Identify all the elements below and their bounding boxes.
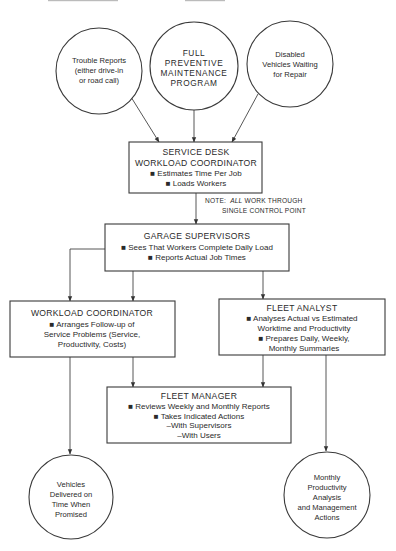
garage-supervisors-title: GARAGE SUPERVISORS [144, 231, 251, 241]
pm-line-1: FULL [183, 48, 206, 58]
workload-coordinator-box: WORKLOAD COORDINATOR ■ Arranges Follow-u… [10, 301, 175, 357]
analyst-line-4: Monthly Summaries [269, 344, 340, 353]
garage-bullet-2: ■ Reports Actual Job Times [148, 253, 246, 262]
manager-line-2: ■ Takes Indicated Actions [154, 412, 245, 421]
disabled-line-3: for Repair [273, 70, 307, 79]
delivered-line-3: Time When [52, 500, 91, 509]
pm-line-3: MAINTENANCE [161, 68, 228, 78]
monthly-line-1: Monthly [314, 473, 341, 482]
monthly-line-5: Actions [315, 513, 340, 522]
workload-coordinator-title: WORKLOAD COORDINATOR [31, 308, 153, 318]
workload-line-1: ■ Arranges Follow-up of [50, 320, 136, 329]
delivered-line-2: Delivered on [50, 490, 93, 499]
fleet-analyst-title: FLEET ANALYST [267, 303, 338, 313]
output-monthly-productivity: Monthly Productivity Analysis and Manage… [284, 452, 370, 538]
monthly-line-2: Productivity [307, 483, 346, 492]
disabled-line-1: Disabled [275, 50, 305, 59]
service-desk-subtitle: WORKLOAD COORDINATOR [135, 158, 257, 168]
garage-supervisors-box: GARAGE SUPERVISORS ■ Sees That Workers C… [105, 224, 289, 271]
delivered-line-4: Promised [55, 510, 87, 519]
analyst-line-2: Worktime and Productivity [258, 324, 351, 333]
delivered-line-1: Vehicles [57, 480, 85, 489]
monthly-line-4: and Management [297, 503, 357, 512]
manager-line-4: –With Users [177, 431, 221, 440]
arrow-trouble-to-service-desk [131, 97, 159, 142]
note-line-1: NOTE:ALL WORK THROUGH [205, 197, 303, 204]
monthly-line-3: Analysis [313, 493, 341, 502]
input-disabled-vehicles: Disabled Vehicles Waiting for Repair [247, 21, 333, 107]
fleet-manager-title: FLEET MANAGER [161, 391, 237, 401]
disabled-line-2: Vehicles Waiting [262, 60, 317, 69]
fleet-analyst-box: FLEET ANALYST ■ Analyses Actual vs Estim… [219, 299, 385, 355]
note-line-2: SINGLE CONTROL POINT [222, 207, 306, 214]
service-desk-box: SERVICE DESK WORKLOAD COORDINATOR ■ Esti… [129, 142, 262, 193]
trouble-reports-line-2: (either drive-in [75, 66, 124, 75]
fleet-manager-box: FLEET MANAGER ■ Reviews Weekly and Month… [107, 387, 291, 443]
output-vehicles-delivered: Vehicles Delivered on Time When Promised [29, 455, 113, 539]
service-desk-bullet-2: ■ Loads Workers [166, 179, 227, 188]
workload-line-2: Service Problems (Service, [44, 330, 140, 339]
input-preventive-maintenance: FULL PREVENTIVE MAINTENANCE PROGRAM [150, 22, 238, 110]
analyst-line-3: ■ Prepares Daily, Weekly, [258, 334, 349, 343]
arrow-garage-to-workload-left [70, 249, 105, 301]
manager-line-3: –With Supervisors [167, 421, 232, 430]
pm-line-2: PREVENTIVE [165, 58, 224, 68]
service-desk-bullet-1: ■ Estimates Time Per Job [150, 169, 242, 178]
analyst-line-1: ■ Analyses Actual vs Estimated [246, 314, 357, 323]
service-desk-title: SERVICE DESK [163, 147, 230, 157]
garage-bullet-1: ■ Sees That Workers Complete Daily Load [121, 243, 273, 252]
trouble-reports-line-3: or road call) [79, 76, 120, 85]
arrow-disabled-to-service-desk [232, 94, 258, 142]
pm-line-4: PROGRAM [170, 78, 217, 88]
workflow-diagram: Trouble Reports (either drive-in or road… [0, 0, 396, 551]
trouble-reports-line-1: Trouble Reports [72, 56, 126, 65]
cropped-header-marks [48, 0, 225, 1]
input-trouble-reports: Trouble Reports (either drive-in or road… [56, 28, 142, 114]
control-point-note: NOTE:ALL WORK THROUGH SINGLE CONTROL POI… [205, 197, 306, 214]
workload-line-3: Productivity, Costs) [58, 340, 127, 349]
manager-line-1: ■ Reviews Weekly and Monthly Reports [128, 402, 270, 411]
